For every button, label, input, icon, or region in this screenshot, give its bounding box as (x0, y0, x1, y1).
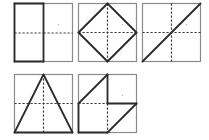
panel-4 (15, 75, 73, 133)
marker-dot (122, 95, 123, 96)
shape-edge-bold (79, 33, 108, 62)
shape-edge-bold (108, 104, 137, 133)
panel-5 (79, 75, 137, 133)
panel-2 (79, 4, 137, 62)
shape-edge-bold (79, 4, 108, 33)
shape-edge-bold (108, 33, 137, 62)
marker-dot (122, 24, 123, 25)
panel-1 (15, 4, 73, 62)
marker-dot (186, 24, 187, 25)
marker-dot (58, 24, 59, 25)
shape-edge-bold (108, 4, 137, 33)
diagram-canvas (0, 0, 209, 140)
panel-3 (143, 4, 201, 62)
shape-edge-bold (79, 75, 108, 104)
